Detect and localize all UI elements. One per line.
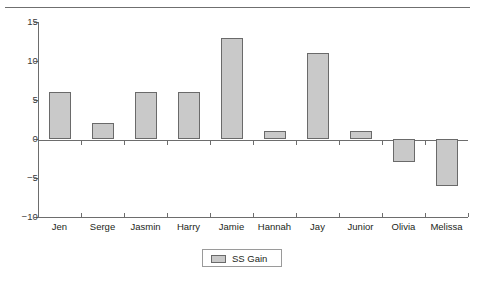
y-tick-label: 15 — [10, 17, 38, 27]
y-axis-line — [38, 22, 39, 218]
legend-label-ss-gain: SS Gain — [232, 253, 267, 265]
x-tick-mark-bottom — [167, 213, 168, 217]
bar — [264, 131, 286, 139]
x-tick-mark — [253, 141, 254, 145]
category-label-jay: Jay — [296, 221, 339, 233]
bar — [221, 38, 243, 139]
x-axis-line — [38, 217, 468, 218]
x-tick-mark-bottom — [468, 213, 469, 217]
x-tick-mark — [425, 141, 426, 145]
x-tick-mark-bottom — [210, 213, 211, 217]
x-tick-mark-bottom — [296, 213, 297, 217]
bar-chart: 151050−5−10 JenSergeJasminHarryJamieHann… — [0, 0, 478, 283]
x-tick-mark-bottom — [382, 213, 383, 217]
x-tick-mark — [210, 141, 211, 145]
x-tick-mark-bottom — [339, 213, 340, 217]
category-label-junior: Junior — [339, 221, 382, 233]
chart-legend: SS Gain — [202, 249, 282, 267]
x-tick-mark-bottom — [425, 213, 426, 217]
y-tick-label: −5 — [10, 173, 38, 183]
y-tick-label-wrap: 10 — [0, 56, 38, 66]
category-label-jen: Jen — [38, 221, 81, 233]
y-tick-label-wrap: 5 — [0, 95, 38, 105]
x-tick-mark-bottom — [81, 213, 82, 217]
x-tick-mark — [81, 141, 82, 145]
x-tick-mark — [339, 141, 340, 145]
x-tick-mark — [167, 141, 168, 145]
bar — [135, 92, 157, 139]
y-tick-label-wrap: 15 — [0, 17, 38, 27]
x-tick-mark — [124, 141, 125, 145]
bar — [307, 53, 329, 139]
category-label-melissa: Melissa — [425, 221, 468, 233]
x-tick-mark-bottom — [124, 213, 125, 217]
bar — [178, 92, 200, 139]
category-label-hannah: Hannah — [253, 221, 296, 233]
category-label-olivia: Olivia — [382, 221, 425, 233]
category-label-jamie: Jamie — [210, 221, 253, 233]
category-label-harry: Harry — [167, 221, 210, 233]
category-label-jasmin: Jasmin — [124, 221, 167, 233]
bar — [436, 139, 458, 186]
category-label-serge: Serge — [81, 221, 124, 233]
y-tick-label-wrap: −5 — [0, 173, 38, 183]
bar — [49, 92, 71, 139]
y-tick-label: 0 — [10, 134, 38, 144]
y-tick-label-wrap: −10 — [0, 212, 38, 222]
y-tick-label: −10 — [10, 212, 38, 222]
legend-swatch-ss-gain — [211, 255, 226, 263]
x-tick-mark-bottom — [253, 213, 254, 217]
y-tick-label: 5 — [10, 95, 38, 105]
plot-area: 151050−5−10 JenSergeJasminHarryJamieHann… — [0, 0, 478, 240]
x-tick-mark — [382, 141, 383, 145]
bar — [393, 139, 415, 162]
y-tick-label-wrap: 0 — [0, 134, 38, 144]
x-tick-mark-bottom — [38, 213, 39, 217]
bar — [350, 131, 372, 139]
x-tick-mark — [296, 141, 297, 145]
y-tick-label: 10 — [10, 56, 38, 66]
bar — [92, 123, 114, 139]
